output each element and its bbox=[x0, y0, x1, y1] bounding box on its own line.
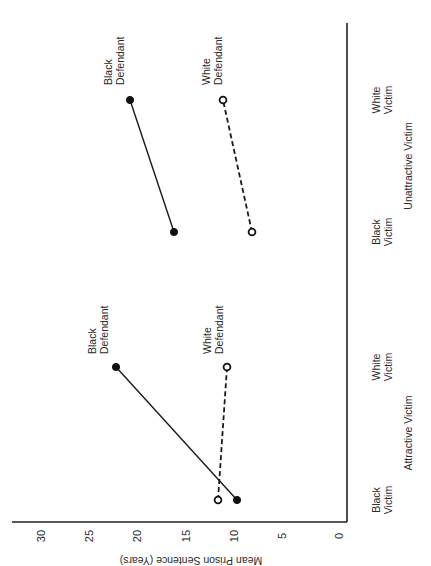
tick-25: 25 bbox=[83, 530, 95, 542]
label-attr-black-defendant: Black bbox=[86, 328, 98, 354]
label-unattr-black-defendant-2: Defendant bbox=[114, 36, 126, 85]
point-unattr-wv-black-def bbox=[126, 96, 133, 103]
sentence-chart: 0 5 10 15 20 25 30 Mean Prison Sentence … bbox=[0, 0, 431, 566]
label-unattr-white-defendant: White bbox=[200, 58, 212, 85]
tick-30: 30 bbox=[35, 530, 47, 542]
label-attr-white-defendant-2: Defendant bbox=[213, 305, 225, 354]
cat-attr-black-victim-2: Victim bbox=[382, 486, 394, 515]
series-unattractive-black-defendant bbox=[130, 100, 174, 232]
tick-5: 5 bbox=[276, 533, 288, 539]
tick-15: 15 bbox=[180, 530, 192, 542]
label-attr-white-defendant: White bbox=[201, 327, 213, 354]
tick-20: 20 bbox=[131, 530, 143, 542]
group-label-unattractive: Unattractive Victim bbox=[402, 122, 414, 210]
label-unattr-black-defendant: Black bbox=[102, 59, 114, 85]
label-unattr-white-defendant-2: Defendant bbox=[212, 36, 224, 85]
tick-0: 0 bbox=[333, 533, 345, 539]
cat-unattr-black-victim: Black bbox=[370, 218, 382, 244]
point-attr-bv-white-def bbox=[215, 497, 222, 504]
series-unattractive-white-defendant bbox=[223, 100, 252, 232]
cat-unattr-white-victim-2: Victim bbox=[382, 86, 394, 115]
series-attractive-white-defendant bbox=[218, 367, 227, 500]
y-axis-title: Mean Prison Sentence (Years) bbox=[120, 555, 263, 566]
cat-attr-white-victim: White bbox=[370, 353, 382, 380]
label-attr-black-defendant-2: Defendant bbox=[98, 305, 110, 354]
tick-10: 10 bbox=[228, 530, 240, 542]
point-unattr-bv-black-def bbox=[170, 228, 177, 235]
point-attr-wv-white-def bbox=[224, 364, 231, 371]
y-tick-labels: 0 5 10 15 20 25 30 bbox=[35, 530, 345, 542]
point-unattr-bv-white-def bbox=[249, 229, 256, 236]
cat-attr-black-victim: Black bbox=[370, 486, 382, 512]
point-attr-wv-black-def bbox=[112, 363, 119, 370]
cat-unattr-black-victim-2: Victim bbox=[382, 218, 394, 247]
cat-unattr-white-victim: White bbox=[370, 86, 382, 113]
cat-attr-white-victim-2: Victim bbox=[382, 353, 394, 382]
point-unattr-wv-white-def bbox=[220, 97, 227, 104]
group-label-attractive: Attractive Victim bbox=[402, 395, 414, 470]
point-attr-bv-black-def bbox=[233, 496, 240, 503]
